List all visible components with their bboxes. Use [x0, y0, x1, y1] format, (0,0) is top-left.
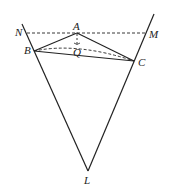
label-B: B [24, 45, 31, 56]
label-Q: Q [73, 47, 81, 58]
label-N: N [15, 27, 22, 38]
line-right-ML [88, 14, 154, 171]
diagram-lines [0, 0, 169, 196]
label-L: L [84, 175, 90, 186]
label-M: M [149, 29, 158, 40]
segment-AC [77, 33, 134, 61]
geometry-diagram: N M A B C Q L [0, 0, 169, 196]
label-A: A [73, 21, 80, 32]
label-C: C [138, 57, 145, 68]
